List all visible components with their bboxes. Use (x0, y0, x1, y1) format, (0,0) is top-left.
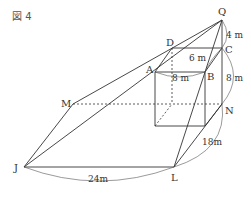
label-q: Q (218, 6, 226, 17)
measure-dc: 6 m (189, 53, 207, 63)
label-n: N (225, 105, 234, 116)
label-c: C (225, 44, 233, 55)
point-labels: Q C D A B N M J L (13, 6, 234, 183)
label-a: A (145, 64, 154, 75)
measure-jl: 24m (88, 174, 108, 184)
geometry-figure: 図 4 Q C D A B (0, 0, 251, 198)
figure-title: 図 4 (12, 11, 32, 22)
measure-nl: 18m (202, 137, 222, 147)
label-l: L (171, 172, 178, 183)
measure-qc: 4 m (226, 30, 244, 40)
measure-ab: 8 m (172, 73, 190, 83)
solid-edges (24, 20, 222, 167)
label-j: J (13, 162, 18, 173)
label-b: B (207, 71, 214, 82)
measurement-arcs (24, 20, 234, 181)
measure-cn: 8 m (226, 73, 244, 83)
label-m: M (61, 98, 71, 109)
label-d: D (166, 37, 174, 48)
